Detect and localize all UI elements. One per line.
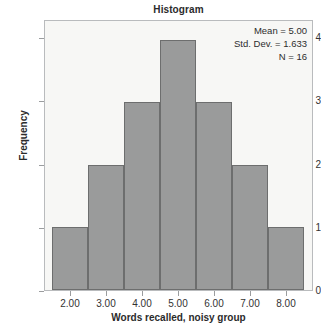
histogram-bar — [232, 165, 268, 290]
x-tick-mark-0 — [70, 291, 71, 296]
y-tick-mark-0 — [39, 291, 44, 292]
chart-title: Histogram — [44, 3, 313, 17]
stats-mean-label: Mean = 5.00 — [234, 24, 307, 37]
x-tick-mark-3 — [178, 291, 179, 296]
histogram-bar — [196, 102, 232, 290]
histogram-bar — [124, 102, 160, 290]
histogram-bar — [88, 165, 124, 290]
stats-n-label: N = 16 — [234, 50, 307, 63]
x-axis-title: Words recalled, noisy group — [44, 312, 313, 323]
x-tick-label-6: 8.00 — [264, 298, 308, 309]
x-tick-mark-6 — [286, 291, 287, 296]
y-axis-title: Frequency — [18, 56, 29, 216]
plot-area: Mean = 5.00 Std. Dev. = 1.633 N = 16 — [44, 20, 313, 291]
histogram-bar — [52, 227, 88, 290]
histogram-chart: Histogram Frequency 0 1 2 3 4 Mean = 5.0… — [0, 0, 321, 330]
x-tick-mark-4 — [214, 291, 215, 296]
x-tick-mark-1 — [106, 291, 107, 296]
x-tick-mark-5 — [250, 291, 251, 296]
stats-stddev-label: Std. Dev. = 1.633 — [234, 37, 307, 50]
stats-annotation: Mean = 5.00 Std. Dev. = 1.633 N = 16 — [234, 24, 307, 63]
x-tick-mark-2 — [142, 291, 143, 296]
histogram-bar — [160, 40, 196, 290]
histogram-bar — [268, 227, 304, 290]
plot-inner: Mean = 5.00 Std. Dev. = 1.633 N = 16 — [45, 21, 312, 290]
